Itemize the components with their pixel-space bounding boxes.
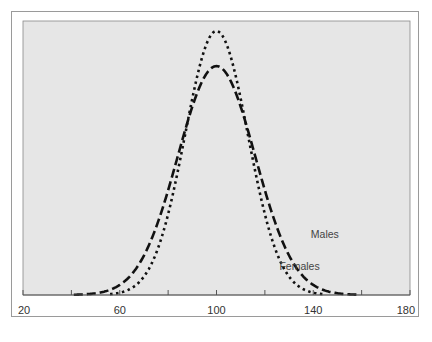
x-axis-tick-labels: 2060100140180 <box>18 304 415 316</box>
series-label-females: Females <box>279 260 319 272</box>
x-tick-label: 100 <box>207 304 225 316</box>
x-tick-label: 60 <box>114 304 126 316</box>
x-tick-label: 20 <box>18 304 30 316</box>
x-tick-label: 140 <box>304 304 322 316</box>
x-tick-label: 180 <box>397 304 415 316</box>
series-label-males: Males <box>311 228 339 240</box>
bell-curve-chart: 2060100140180 MalesFemales <box>0 0 432 342</box>
plot-area <box>23 21 410 295</box>
